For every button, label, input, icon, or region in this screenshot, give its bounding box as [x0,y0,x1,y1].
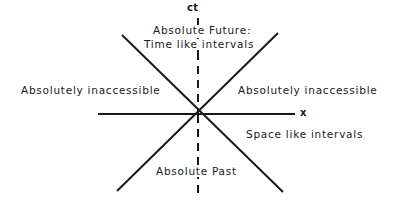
region-label-absolutely-inaccessible-left: Absolutely inaccessible [19,85,163,96]
region-label-absolutely-inaccessible-right: Absolutely inaccessible [236,85,380,96]
region-label-space-like-intervals: Space like intervals [244,129,365,140]
minkowski-diagram: ct x Absolute Future: Time like interval… [0,0,396,206]
region-label-absolute-past: Absolute Past [154,166,239,177]
ct-axis-label: ct [186,3,200,13]
region-label-time-like-intervals: Time like intervals [142,39,256,50]
region-label-absolute-future: Absolute Future: [151,25,253,36]
x-axis-label: x [299,108,308,118]
